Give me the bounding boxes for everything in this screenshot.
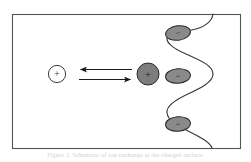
figure-root: + + − − − Figure 1. Schematic of ion exc… xyxy=(0,0,251,162)
bound-cation-marker: + xyxy=(137,63,159,85)
figure-frame xyxy=(13,15,241,149)
free-cation-marker: + xyxy=(48,65,65,82)
surface-anion-3-charge-label: − xyxy=(175,119,181,129)
surface-anion-2-charge-label: − xyxy=(175,71,181,81)
bound-cation-charge-label: + xyxy=(145,69,151,80)
free-cation-charge-label: + xyxy=(54,69,59,79)
figure-caption: Figure 1. Schematic of ion exchange at t… xyxy=(0,151,251,159)
diagram-canvas: + + − − − xyxy=(0,0,251,162)
